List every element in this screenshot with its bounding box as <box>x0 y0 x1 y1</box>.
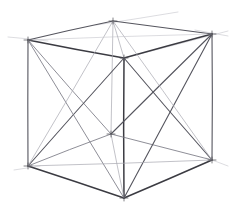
edge-top-face-left-back <box>28 40 124 58</box>
drawing-canvas <box>0 0 231 220</box>
vertex-tick-bottom-right <box>208 157 216 163</box>
vertex-tick-top-back-interior <box>120 55 128 61</box>
vertex-tick-bottom-front-apex <box>120 195 128 201</box>
edge-diag-front-right-face-a <box>124 34 212 198</box>
edge-diag-right-face-a <box>111 34 212 134</box>
construction-guides-group <box>8 12 228 170</box>
edge-vertical-front <box>111 21 113 134</box>
edge-diag-bottom-face-a <box>28 160 212 166</box>
edge-bottom-face-back-right <box>111 134 212 160</box>
edge-diag-left-face-b <box>28 58 124 166</box>
edge-bottom-face-left-front <box>28 166 124 198</box>
edge-diag-top-face-b <box>113 21 124 58</box>
edge-diag-bottom-face-b <box>111 134 124 198</box>
edge-bottom-face-front-right <box>124 160 212 198</box>
vertex-tick-top-left <box>24 37 32 43</box>
wireframe-cube-drawing <box>0 0 231 220</box>
edge-diag-top-face-a <box>28 34 212 40</box>
vanishing-guide-apex <box>96 12 178 25</box>
edge-diag-front-right-face-b <box>113 21 212 160</box>
edge-diag-front-left-face-a <box>28 40 124 198</box>
edge-bottom-face-left-back <box>28 134 111 166</box>
cube-edges-group <box>28 21 213 198</box>
edge-top-face-front-right <box>113 21 212 34</box>
edge-diag-right-face-b <box>124 58 212 160</box>
